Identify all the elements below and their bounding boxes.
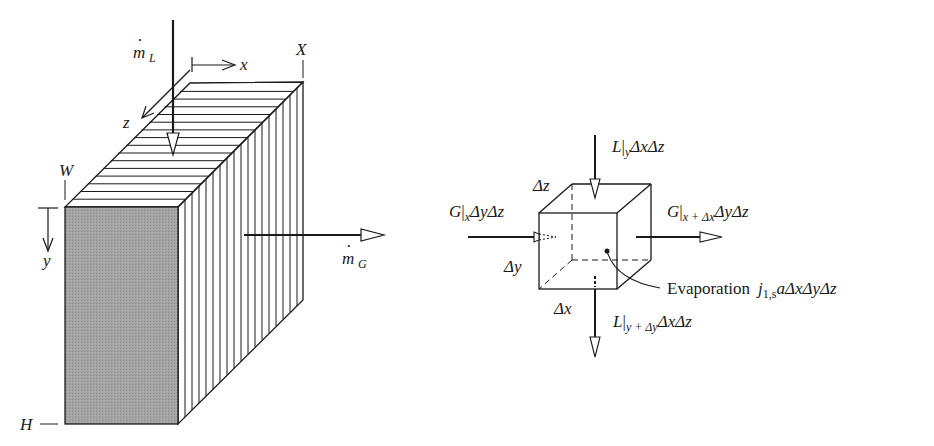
liquid-in-label: L|yΔxΔz	[611, 137, 665, 159]
evaporation-label: Evaporationj1,saΔxΔyΔz	[667, 279, 837, 301]
gas-flow-label: m · G	[342, 237, 367, 271]
dz-label: Δz	[532, 176, 550, 195]
liquid-out-arrow	[590, 276, 600, 357]
evaporation-leader	[605, 249, 661, 289]
svg-text:G: G	[358, 257, 367, 271]
svg-text:L: L	[148, 51, 156, 65]
gas-in-arrow	[468, 232, 556, 242]
gas-out-arrow	[636, 232, 722, 242]
liquid-flow-label: m · L	[133, 31, 156, 65]
corner-H-label: H	[19, 415, 34, 434]
slab-packing	[65, 82, 303, 424]
corner-X-label: X	[295, 40, 307, 59]
top-face-hatching	[73, 91, 293, 199]
z-axis-arrow	[142, 70, 190, 118]
y-axis-label: y	[41, 251, 51, 270]
y-axis-arrow	[38, 208, 58, 251]
z-axis-label: z	[122, 113, 130, 132]
gas-in-label: G|xΔyΔz	[449, 202, 505, 224]
x-axis-label: x	[239, 55, 248, 74]
gas-out-label: G|x + ΔxΔyΔz	[667, 202, 749, 224]
corner-W-label: W	[59, 161, 75, 180]
svg-text:·: ·	[346, 237, 352, 256]
liquid-flow-arrow	[167, 20, 179, 155]
liquid-out-label: L|y + ΔyΔxΔz	[612, 312, 692, 334]
slab-top-face	[65, 82, 303, 207]
svg-text:·: ·	[137, 31, 143, 50]
x-axis-arrow	[192, 57, 235, 72]
liquid-in-arrow	[590, 135, 600, 198]
dy-label: Δy	[503, 257, 522, 276]
slab-front-face	[65, 207, 178, 424]
gas-flow-arrow	[244, 229, 384, 241]
diagram-canvas: x z y X W H m · L m · G	[0, 0, 934, 446]
dx-label: Δx	[553, 299, 572, 318]
